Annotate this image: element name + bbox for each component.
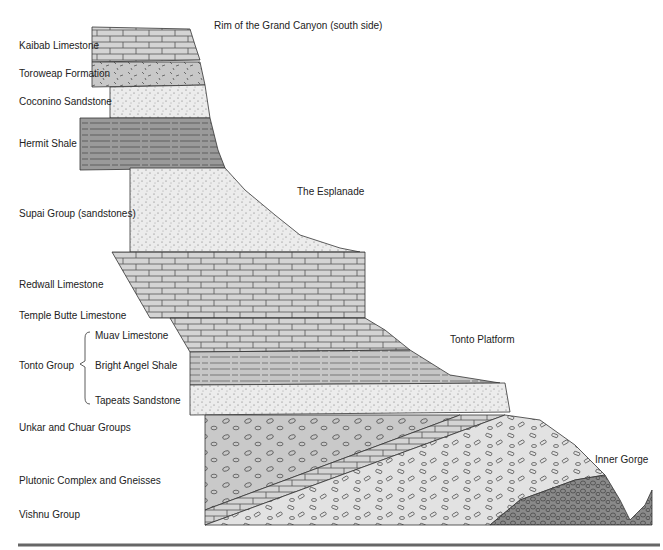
tapeats-layer (190, 383, 510, 415)
label-inner-gorge: Inner Gorge (595, 454, 648, 466)
label-bright-angel: Bright Angel Shale (95, 360, 177, 372)
label-muav: Muav Limestone (95, 330, 168, 342)
supai-layer (130, 168, 360, 252)
label-redwall: Redwall Limestone (19, 279, 104, 291)
bright-angel-layer (190, 350, 500, 385)
label-plutonic: Plutonic Complex and Gneisses (19, 475, 161, 487)
label-tonto-group: Tonto Group (19, 360, 74, 372)
coconino-layer (110, 85, 210, 118)
label-toroweap: Toroweap Formation (19, 68, 110, 80)
label-tapeats: Tapeats Sandstone (95, 395, 181, 407)
canyon-cross-section (0, 0, 663, 550)
label-kaibab: Kaibab Limestone (19, 40, 99, 52)
label-esplanade: The Esplanade (297, 186, 364, 198)
label-hermit: Hermit Shale (19, 138, 77, 150)
muav-layer (170, 318, 410, 352)
label-coconino: Coconino Sandstone (19, 96, 112, 108)
label-tonto-platform: Tonto Platform (450, 334, 514, 346)
hermit-shale-layer (80, 118, 225, 170)
label-vishnu: Vishnu Group (19, 509, 80, 521)
kaibab-layer (92, 27, 200, 62)
redwall-layer (112, 252, 365, 318)
rim-title: Rim of the Grand Canyon (south side) (214, 20, 382, 32)
label-temple-butte: Temple Butte Limestone (19, 310, 126, 322)
tonto-brace (80, 332, 90, 404)
label-supai: Supai Group (sandstones) (19, 208, 136, 220)
label-unkar: Unkar and Chuar Groups (19, 422, 131, 434)
